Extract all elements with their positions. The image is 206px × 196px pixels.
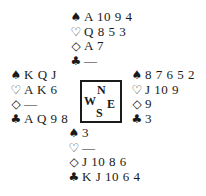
- compass-west-label: W: [84, 94, 96, 109]
- east-clubs-cards: 3: [145, 112, 152, 127]
- compass-box: N W E S: [80, 80, 122, 123]
- west-spades-row: ♠ K Q J: [10, 68, 68, 83]
- east-hand: ♠ 8 7 6 5 2 ♡ J 10 9 ◇ 9 ♣ 3: [131, 68, 195, 126]
- east-diamonds-row: ◇ 9: [131, 97, 195, 112]
- south-clubs-row: ♣ K J 10 6 4: [68, 170, 140, 185]
- compass-east-label: E: [107, 97, 115, 112]
- heart-icon: ♡: [70, 25, 82, 40]
- heart-icon: ♡: [131, 83, 143, 98]
- west-spades-cards: K Q J: [24, 68, 57, 83]
- north-diamonds-row: ◇ A 7: [70, 39, 132, 54]
- north-diamonds-cards: A 7: [84, 39, 104, 54]
- spade-icon: ♠: [10, 68, 22, 83]
- north-hearts-row: ♡ Q 8 5 3: [70, 25, 132, 40]
- compass-north-label: N: [97, 83, 106, 98]
- east-clubs-row: ♣ 3: [131, 112, 195, 127]
- spade-icon: ♠: [131, 68, 143, 83]
- west-hand: ♠ K Q J ♡ A K 6 ◇ — ♣ A Q 9 8: [10, 68, 68, 126]
- east-hearts-cards: J 10 9: [145, 83, 179, 98]
- diamond-icon: ◇: [131, 97, 143, 112]
- west-hearts-row: ♡ A K 6: [10, 83, 68, 98]
- compass-south-label: S: [96, 106, 103, 121]
- club-icon: ♣: [131, 112, 143, 127]
- diamond-icon: ◇: [70, 39, 82, 54]
- north-hand: ♠ A 10 9 4 ♡ Q 8 5 3 ◇ A 7 ♣ —: [70, 10, 132, 68]
- east-diamonds-cards: 9: [145, 97, 152, 112]
- east-spades-row: ♠ 8 7 6 5 2: [131, 68, 195, 83]
- spade-icon: ♠: [70, 10, 82, 25]
- north-spades-row: ♠ A 10 9 4: [70, 10, 132, 25]
- south-hearts-row: ♡ —: [68, 141, 140, 156]
- north-spades-cards: A 10 9 4: [84, 10, 132, 25]
- south-spades-cards: 3: [82, 126, 89, 141]
- club-icon: ♣: [68, 170, 80, 185]
- south-hand: ♠ 3 ♡ — ◇ J 10 8 6 ♣ K J 10 6 4: [68, 126, 140, 184]
- spade-icon: ♠: [68, 126, 80, 141]
- west-diamonds-row: ◇ —: [10, 97, 68, 112]
- heart-icon: ♡: [10, 83, 22, 98]
- club-icon: ♣: [70, 54, 82, 69]
- north-clubs-cards: —: [84, 54, 98, 69]
- south-clubs-cards: K J 10 6 4: [82, 170, 140, 185]
- west-diamonds-cards: —: [24, 97, 38, 112]
- east-hearts-row: ♡ J 10 9: [131, 83, 195, 98]
- diamond-icon: ◇: [68, 155, 80, 170]
- heart-icon: ♡: [68, 141, 80, 156]
- south-hearts-cards: —: [82, 141, 96, 156]
- east-spades-cards: 8 7 6 5 2: [145, 68, 195, 83]
- west-hearts-cards: A K 6: [24, 83, 58, 98]
- south-diamonds-row: ◇ J 10 8 6: [68, 155, 140, 170]
- north-clubs-row: ♣ —: [70, 54, 132, 69]
- south-diamonds-cards: J 10 8 6: [82, 155, 127, 170]
- club-icon: ♣: [10, 112, 22, 127]
- west-clubs-cards: A Q 9 8: [24, 112, 68, 127]
- diamond-icon: ◇: [10, 97, 22, 112]
- west-clubs-row: ♣ A Q 9 8: [10, 112, 68, 127]
- south-spades-row: ♠ 3: [68, 126, 140, 141]
- north-hearts-cards: Q 8 5 3: [84, 25, 126, 40]
